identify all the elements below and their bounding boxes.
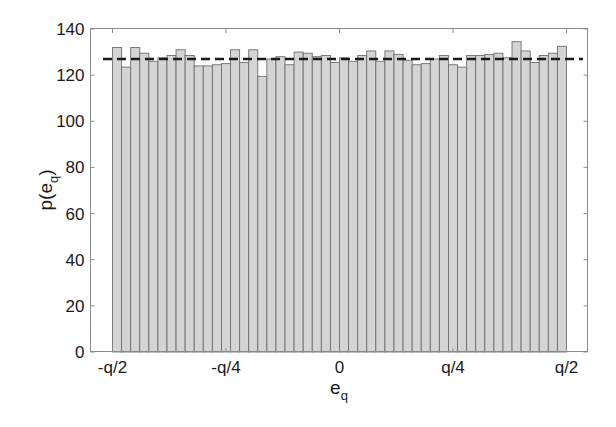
histogram-bar xyxy=(430,59,439,352)
histogram-bar xyxy=(330,62,339,352)
histogram-bar xyxy=(167,56,176,352)
y-tick-label: 140 xyxy=(56,20,84,39)
histogram-bar xyxy=(140,53,149,352)
histogram-bar xyxy=(240,62,249,352)
histogram-bar xyxy=(557,46,566,352)
histogram-bar xyxy=(176,50,185,352)
y-tick-label: 120 xyxy=(56,66,84,85)
y-tick-label: 80 xyxy=(66,158,85,177)
histogram-bar xyxy=(485,54,494,352)
histogram-bar xyxy=(539,56,548,352)
x-tick-label: q/4 xyxy=(441,358,465,377)
histogram-bar xyxy=(403,60,412,352)
histogram-bar xyxy=(548,53,557,352)
histogram-bar xyxy=(349,61,358,352)
histogram-bar xyxy=(312,57,321,352)
y-axis-label: p(eq) xyxy=(35,169,61,210)
histogram-bar xyxy=(512,42,521,352)
histogram-bar xyxy=(385,51,394,352)
y-tick-label: 40 xyxy=(66,251,85,270)
histogram-bar xyxy=(294,52,303,352)
histogram-bar xyxy=(249,50,258,352)
histogram-bar xyxy=(131,47,140,352)
histogram-bar xyxy=(476,56,485,352)
histogram-bar xyxy=(340,58,349,352)
histogram-bar xyxy=(494,53,503,352)
histogram-bar xyxy=(149,61,158,352)
x-tick-label: q/2 xyxy=(555,358,579,377)
y-tick-label: 60 xyxy=(66,205,85,224)
histogram-chart: 020406080100120140 -q/2-q/40q/4q/2 eq p(… xyxy=(0,0,616,427)
histogram-bar xyxy=(367,51,376,352)
histogram-bar xyxy=(194,66,203,352)
histogram-bar xyxy=(394,54,403,352)
x-tick-label: -q/4 xyxy=(211,358,240,377)
histogram-bar xyxy=(503,58,512,352)
histogram-bar xyxy=(530,62,539,352)
histogram-bars xyxy=(113,42,567,352)
histogram-bar xyxy=(303,53,312,352)
histogram-bar xyxy=(231,50,240,352)
histogram-bar xyxy=(203,66,212,352)
histogram-bar xyxy=(221,64,230,352)
histogram-bar xyxy=(439,56,448,352)
histogram-bar xyxy=(113,47,122,352)
histogram-bar xyxy=(258,76,267,352)
y-tick-label: 20 xyxy=(66,297,85,316)
histogram-bar xyxy=(376,61,385,352)
histogram-bar xyxy=(267,59,276,352)
histogram-bar xyxy=(158,58,167,352)
x-tick-label: 0 xyxy=(335,358,344,377)
histogram-bar xyxy=(212,65,221,352)
histogram-bar xyxy=(421,64,430,352)
histogram-bar xyxy=(412,65,421,352)
y-tick-label: 100 xyxy=(56,112,84,131)
histogram-bar xyxy=(122,67,131,352)
histogram-bar xyxy=(458,67,467,352)
x-tick-label: -q/2 xyxy=(98,358,127,377)
y-tick-label: 0 xyxy=(75,343,84,362)
histogram-bar xyxy=(185,56,194,352)
x-axis-label: eq xyxy=(330,377,348,403)
histogram-bar xyxy=(467,56,476,352)
histogram-bar xyxy=(521,51,530,352)
histogram-bar xyxy=(276,57,285,352)
histogram-bar xyxy=(448,65,457,352)
histogram-bar xyxy=(321,56,330,352)
histogram-bar xyxy=(358,56,367,352)
histogram-bar xyxy=(285,65,294,352)
